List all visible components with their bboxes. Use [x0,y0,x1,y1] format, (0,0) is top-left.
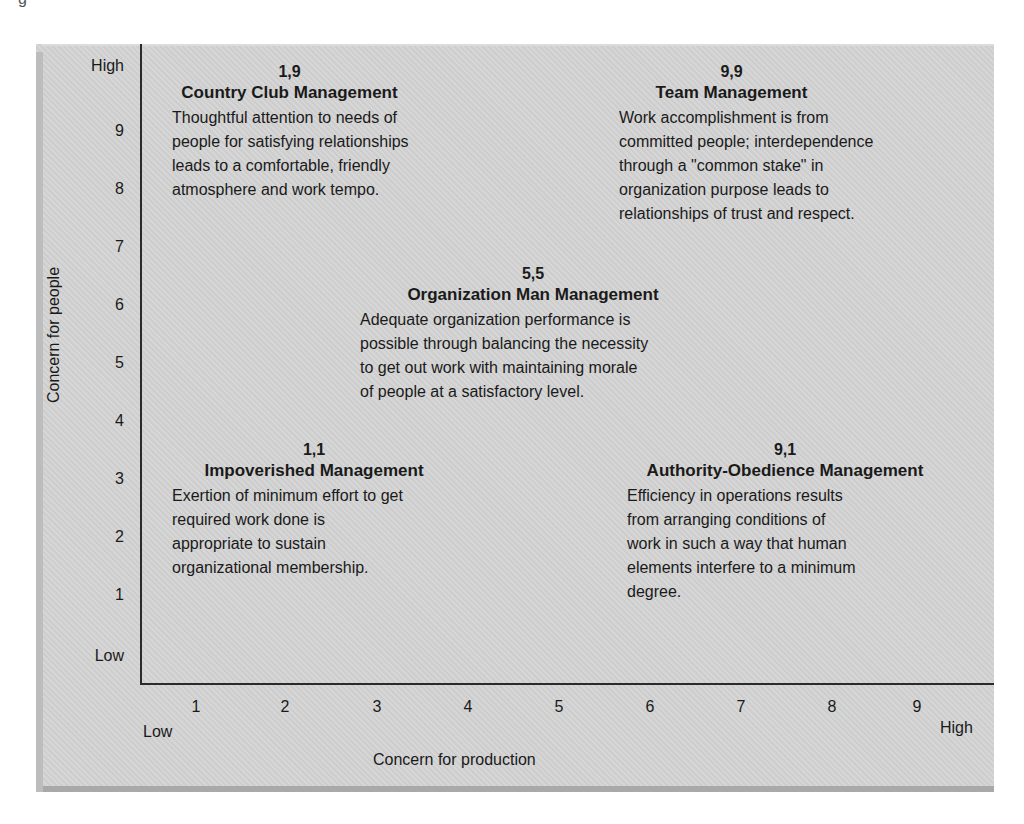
x-tick-3: 3 [367,698,387,716]
style-coords: 5,5 [360,264,706,284]
y-low-label: Low [64,647,124,665]
style-authority-obedience: 9,1 Authority-Obedience Management Effic… [610,440,960,604]
x-tick-5: 5 [549,698,569,716]
x-axis-line [140,683,994,685]
panel-bottom-shadow [43,786,994,792]
style-coords: 9,1 [610,440,960,460]
y-tick-1: 1 [64,586,124,604]
style-coords: 1,1 [172,440,456,460]
x-high-label: High [940,719,973,737]
y-high-label: High [64,57,124,75]
page-fragment-text: g [18,0,27,8]
y-axis-title: Concern for people [45,255,63,415]
style-description: Efficiency in operations results from ar… [627,484,960,604]
y-axis-line [140,44,142,685]
style-coords: 1,9 [172,62,407,82]
x-tick-4: 4 [458,698,478,716]
style-coords: 9,9 [619,62,844,82]
x-tick-9: 9 [907,698,927,716]
style-description: Adequate organization performance is pos… [360,308,706,404]
style-title: Team Management [619,82,844,104]
style-organization-man: 5,5 Organization Man Management Adequate… [360,264,706,404]
style-description: Work accomplishment is from committed pe… [619,106,873,226]
y-tick-8: 8 [64,180,124,198]
x-axis-title: Concern for production [373,751,536,769]
panel-left-shadow [36,52,43,792]
style-description: Thoughtful attention to needs of people … [172,106,409,202]
y-tick-2: 2 [64,528,124,546]
x-tick-6: 6 [640,698,660,716]
style-impoverished: 1,1 Impoverished Management Exertion of … [172,440,456,580]
y-tick-3: 3 [64,470,124,488]
managerial-grid-panel: High 9 8 7 6 5 4 3 2 1 Low Concern for p… [36,44,994,792]
y-tick-5: 5 [64,354,124,372]
x-tick-1: 1 [186,698,206,716]
style-description: Exertion of minimum effort to get requir… [172,484,456,580]
x-tick-8: 8 [822,698,842,716]
x-tick-7: 7 [731,698,751,716]
x-tick-2: 2 [275,698,295,716]
style-country-club: 1,9 Country Club Management Thoughtful a… [172,62,409,202]
panel-top-edge [41,44,994,46]
style-title: Authority-Obedience Management [610,460,960,482]
y-tick-4: 4 [64,412,124,430]
style-team: 9,9 Team Management Work accomplishment … [619,62,873,226]
y-tick-6: 6 [64,296,124,314]
style-title: Organization Man Management [360,284,706,306]
style-title: Impoverished Management [172,460,456,482]
y-tick-7: 7 [64,238,124,256]
x-low-label: Low [143,723,172,741]
y-tick-9: 9 [64,122,124,140]
style-title: Country Club Management [172,82,407,104]
